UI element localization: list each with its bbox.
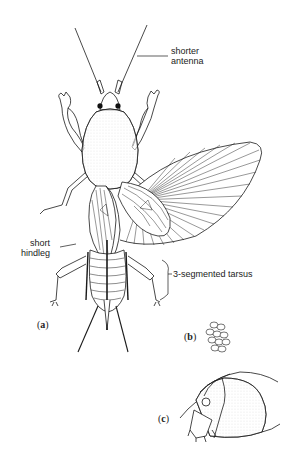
antennae bbox=[75, 25, 168, 94]
side-view-head bbox=[180, 372, 280, 442]
pronotum bbox=[82, 109, 138, 189]
cerci bbox=[78, 306, 128, 352]
label-short-hindleg: short hindleg bbox=[21, 238, 50, 258]
annotation-line-1: shorter bbox=[171, 46, 204, 56]
label-shorter-antenna: shorter antenna bbox=[171, 46, 204, 66]
mole-cricket-illustration bbox=[0, 0, 297, 456]
insect-figure: shorter antenna short hindleg 3-segmente… bbox=[0, 0, 297, 456]
annotation-line-2: antenna bbox=[171, 56, 204, 66]
label-3-segmented-tarsus: 3-segmented tarsus bbox=[173, 269, 253, 279]
panel-label-c: (c) bbox=[158, 413, 169, 424]
abdomen bbox=[86, 240, 128, 330]
panel-label-b: (b) bbox=[184, 331, 196, 342]
egg-cluster bbox=[206, 322, 230, 352]
head bbox=[97, 92, 120, 110]
annotation-line-2: hindleg bbox=[21, 248, 50, 258]
annotation-line-1: short bbox=[21, 238, 50, 248]
panel-label-a: (a) bbox=[37, 319, 49, 330]
